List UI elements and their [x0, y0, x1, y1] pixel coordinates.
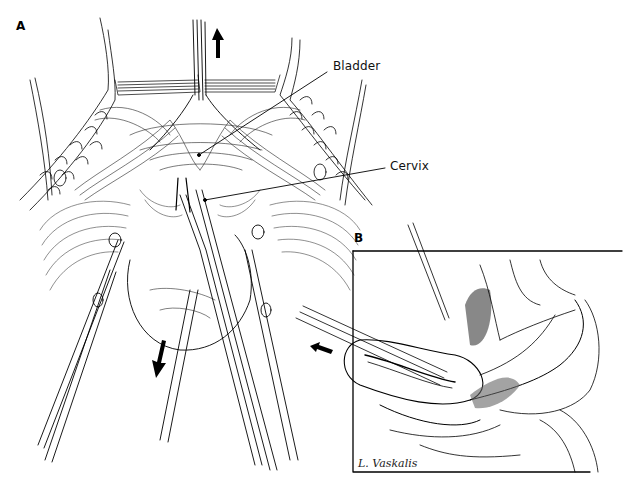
- bladder-leader: [199, 72, 327, 155]
- bladder-label: Bladder: [333, 60, 380, 72]
- cervix-label: Cervix: [390, 160, 429, 172]
- traction-up-arrow: [212, 28, 224, 58]
- inset-b-drawing: [296, 223, 599, 472]
- cervix-leader: [205, 168, 385, 200]
- traction-down-arrow: [152, 340, 166, 378]
- clamps-a: [38, 178, 298, 470]
- insertion-arrow: [310, 342, 333, 354]
- artist-signature: L. Vaskalis: [358, 458, 417, 469]
- inset-frame: [353, 251, 622, 472]
- panel-label-a: A: [16, 20, 25, 32]
- anatomical-figure: A B Bladder Cervix L. Vaskalis: [0, 0, 634, 481]
- panel-label-b: B: [354, 232, 363, 244]
- left-retractor-fat: [20, 18, 115, 210]
- retractor-band: [115, 75, 280, 95]
- illustration-drawing: [0, 0, 634, 481]
